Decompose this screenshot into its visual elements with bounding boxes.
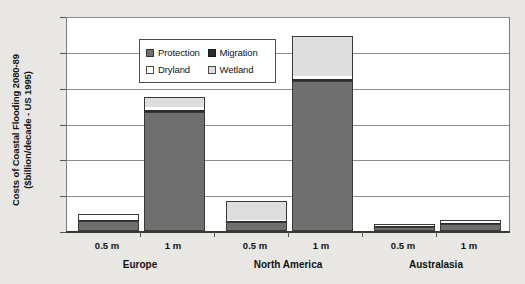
legend-item-protection[interactable]: Protection (146, 47, 208, 58)
y-axis-tick-mark (60, 53, 66, 54)
legend-label: Dryland (158, 64, 190, 75)
legend-item-migration[interactable]: Migration (208, 47, 270, 58)
bar-segment-protection (292, 81, 353, 231)
y-axis-tick-mark (60, 196, 66, 197)
x-axis-tick-mark (436, 232, 437, 237)
x-axis-tick-mark (214, 232, 215, 237)
stacked-bar[interactable] (440, 220, 501, 231)
bar-segment-wetland (292, 36, 353, 77)
stacked-bar[interactable] (374, 224, 435, 231)
chart-figure: Costs of Coastal Flooding 2080-89 ($bill… (0, 0, 525, 284)
legend-label: Wetland (220, 64, 254, 75)
plot-area: ProtectionMigrationDrylandWetland (66, 17, 510, 232)
stacked-bar[interactable] (226, 201, 287, 231)
stacked-bar[interactable] (144, 97, 205, 231)
legend-label: Protection (158, 47, 200, 58)
bar-segment-protection (440, 224, 501, 231)
x-axis-tick-label: 0.5 m (95, 240, 119, 251)
x-axis-group-label: Europe (123, 259, 157, 270)
wetland-swatch-icon (208, 66, 216, 74)
x-axis-tick-mark (140, 232, 141, 237)
bar-segment-protection (226, 222, 287, 231)
x-axis-group-label: Australasia (409, 259, 463, 270)
bar-segment-wetland (226, 201, 287, 220)
dryland-swatch-icon (146, 66, 154, 74)
migration-swatch-icon (208, 49, 216, 57)
bar-segment-protection (78, 221, 139, 231)
x-axis-group-label: North America (254, 259, 323, 270)
x-axis-tick-label: 0.5 m (243, 240, 267, 251)
legend-item-dryland[interactable]: Dryland (146, 64, 208, 75)
y-axis-tick-mark (60, 89, 66, 90)
legend-item-wetland[interactable]: Wetland (208, 64, 270, 75)
stacked-bar[interactable] (292, 36, 353, 231)
x-axis-tick-label: 1 m (461, 240, 477, 251)
bar-segment-protection (144, 112, 205, 231)
stacked-bar[interactable] (78, 214, 139, 231)
x-axis-tick-mark (288, 232, 289, 237)
y-axis-title: Costs of Coastal Flooding 2080-89 ($bill… (5, 15, 39, 245)
x-axis-tick-label: 0.5 m (391, 240, 415, 251)
y-axis-tick-mark (60, 17, 66, 18)
chart-legend: ProtectionMigrationDrylandWetland (139, 39, 276, 83)
y-axis-tick-mark (60, 160, 66, 161)
y-axis-title-line-2: ($billion/decade - US 1995) (22, 71, 34, 189)
y-axis-tick-mark (60, 125, 66, 126)
bar-series-container (67, 18, 509, 231)
x-axis-tick-label: 1 m (313, 240, 329, 251)
x-axis-tick-mark (362, 232, 363, 237)
legend-label: Migration (220, 47, 258, 58)
protection-swatch-icon (146, 49, 154, 57)
y-axis-title-line-1: Costs of Coastal Flooding 2080-89 (10, 54, 22, 206)
x-axis-tick-label: 1 m (165, 240, 181, 251)
bar-segment-wetland (144, 97, 205, 107)
